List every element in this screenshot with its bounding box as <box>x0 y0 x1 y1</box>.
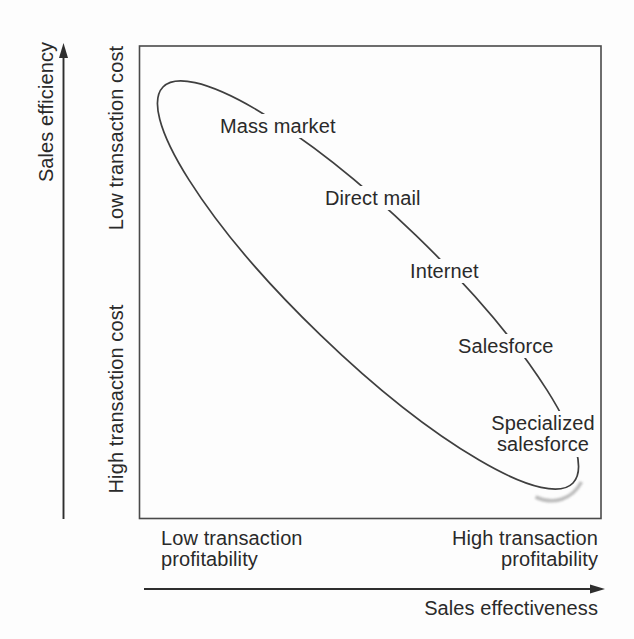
x-axis-arrow <box>144 585 605 594</box>
channel-label-mass-market: Mass market <box>213 114 343 138</box>
x-axis-title: Sales effectiveness <box>424 598 598 618</box>
y-axis-label-low-transaction-cost: Low transaction cost <box>106 46 126 230</box>
channel-label-specialized-salesforce: Specialized salesforce <box>487 411 599 457</box>
y-axis-arrowhead-icon <box>59 43 68 58</box>
channel-label-direct-mail: Direct mail <box>318 186 428 210</box>
y-axis-arrow <box>59 43 68 519</box>
x-axis-label-high-transaction-profitability: High transaction profitability <box>443 528 598 570</box>
y-axis-title: Sales efficiency <box>36 42 56 182</box>
curve-shadow <box>536 482 582 501</box>
channel-label-internet: Internet <box>403 259 486 283</box>
y-axis-label-high-transaction-cost: High transaction cost <box>106 305 126 494</box>
channel-curve <box>115 37 621 532</box>
x-axis-arrowhead-icon <box>590 585 605 594</box>
x-axis-label-low-transaction-profitability: Low transaction profitability <box>161 528 311 570</box>
channel-label-salesforce: Salesforce <box>451 334 561 358</box>
figure: Sales efficiency Low transaction cost Hi… <box>0 0 634 639</box>
